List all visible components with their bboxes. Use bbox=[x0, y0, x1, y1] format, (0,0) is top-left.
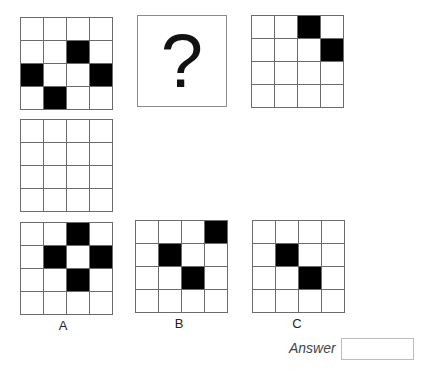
option-b-label: B bbox=[134, 316, 224, 331]
empty-cell bbox=[136, 267, 158, 289]
empty-cell bbox=[159, 290, 181, 312]
empty-cell bbox=[67, 143, 89, 165]
empty-cell bbox=[322, 221, 344, 243]
empty-cell bbox=[67, 87, 89, 109]
empty-cell bbox=[275, 39, 297, 61]
empty-cell bbox=[321, 16, 343, 38]
empty-cell bbox=[275, 62, 297, 84]
empty-cell bbox=[67, 64, 89, 86]
empty-cell bbox=[44, 64, 66, 86]
empty-cell bbox=[321, 85, 343, 107]
empty-cell bbox=[322, 290, 344, 312]
empty-cell bbox=[90, 166, 112, 188]
filled-cell bbox=[299, 267, 321, 289]
empty-cell bbox=[276, 221, 298, 243]
empty-cell bbox=[21, 18, 43, 40]
answer-label: Answer bbox=[289, 340, 336, 356]
option-c-grid[interactable] bbox=[252, 220, 345, 313]
empty-cell bbox=[44, 189, 66, 211]
empty-cell bbox=[276, 267, 298, 289]
puzzle-grid-1 bbox=[20, 17, 113, 110]
empty-cell bbox=[44, 120, 66, 142]
empty-cell bbox=[205, 244, 227, 266]
empty-cell bbox=[136, 244, 158, 266]
filled-cell bbox=[90, 246, 112, 268]
empty-cell bbox=[21, 223, 43, 245]
empty-cell bbox=[90, 143, 112, 165]
empty-cell bbox=[253, 290, 275, 312]
empty-cell bbox=[44, 269, 66, 291]
empty-cell bbox=[67, 189, 89, 211]
empty-cell bbox=[21, 143, 43, 165]
filled-cell bbox=[44, 246, 66, 268]
filled-cell bbox=[67, 269, 89, 291]
puzzle-grid-4 bbox=[20, 119, 113, 212]
empty-cell bbox=[136, 290, 158, 312]
empty-cell bbox=[90, 120, 112, 142]
empty-cell bbox=[21, 292, 43, 314]
empty-cell bbox=[321, 62, 343, 84]
empty-cell bbox=[253, 221, 275, 243]
option-a-grid[interactable] bbox=[20, 222, 113, 315]
option-a-label: A bbox=[18, 318, 108, 333]
empty-cell bbox=[182, 244, 204, 266]
filled-cell bbox=[21, 64, 43, 86]
empty-cell bbox=[67, 120, 89, 142]
filled-cell bbox=[321, 39, 343, 61]
empty-cell bbox=[182, 221, 204, 243]
empty-cell bbox=[21, 166, 43, 188]
empty-cell bbox=[252, 62, 274, 84]
empty-cell bbox=[21, 246, 43, 268]
option-c-label: C bbox=[252, 316, 342, 331]
empty-cell bbox=[299, 221, 321, 243]
empty-cell bbox=[44, 292, 66, 314]
empty-cell bbox=[252, 39, 274, 61]
empty-cell bbox=[136, 221, 158, 243]
empty-cell bbox=[44, 143, 66, 165]
question-box: ? bbox=[137, 15, 227, 107]
filled-cell bbox=[67, 41, 89, 63]
empty-cell bbox=[90, 223, 112, 245]
puzzle-grid-3 bbox=[251, 15, 344, 108]
empty-cell bbox=[322, 244, 344, 266]
filled-cell bbox=[276, 244, 298, 266]
empty-cell bbox=[44, 41, 66, 63]
empty-cell bbox=[90, 41, 112, 63]
empty-cell bbox=[253, 244, 275, 266]
filled-cell bbox=[159, 244, 181, 266]
empty-cell bbox=[67, 246, 89, 268]
filled-cell bbox=[67, 223, 89, 245]
empty-cell bbox=[90, 292, 112, 314]
empty-cell bbox=[67, 292, 89, 314]
question-mark: ? bbox=[161, 23, 203, 99]
empty-cell bbox=[90, 87, 112, 109]
empty-cell bbox=[21, 189, 43, 211]
empty-cell bbox=[90, 269, 112, 291]
filled-cell bbox=[182, 267, 204, 289]
empty-cell bbox=[299, 290, 321, 312]
empty-cell bbox=[21, 87, 43, 109]
empty-cell bbox=[252, 16, 274, 38]
empty-cell bbox=[44, 166, 66, 188]
empty-cell bbox=[67, 18, 89, 40]
empty-cell bbox=[276, 290, 298, 312]
filled-cell bbox=[205, 221, 227, 243]
filled-cell bbox=[44, 87, 66, 109]
empty-cell bbox=[322, 267, 344, 289]
empty-cell bbox=[90, 189, 112, 211]
empty-cell bbox=[252, 85, 274, 107]
empty-cell bbox=[275, 85, 297, 107]
empty-cell bbox=[44, 18, 66, 40]
filled-cell bbox=[298, 16, 320, 38]
empty-cell bbox=[205, 267, 227, 289]
answer-input[interactable] bbox=[341, 338, 414, 360]
empty-cell bbox=[67, 166, 89, 188]
empty-cell bbox=[298, 85, 320, 107]
option-b-grid[interactable] bbox=[135, 220, 228, 313]
empty-cell bbox=[299, 244, 321, 266]
empty-cell bbox=[159, 267, 181, 289]
empty-cell bbox=[275, 16, 297, 38]
empty-cell bbox=[21, 120, 43, 142]
empty-cell bbox=[205, 290, 227, 312]
empty-cell bbox=[21, 269, 43, 291]
